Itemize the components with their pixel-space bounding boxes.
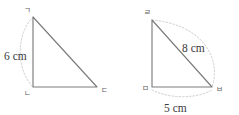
vertex-label-nieun: ㄴ bbox=[24, 89, 31, 98]
geometry-figure: ㄱ ㄴ ㄷ 6 cm ㄹ ㅁ ㅂ 8 cm 5 cm bbox=[0, 0, 239, 115]
measure-label-8cm: 8 cm bbox=[182, 42, 205, 54]
triangle-right bbox=[152, 20, 214, 97]
measure-arc-right-base bbox=[152, 90, 212, 97]
figure-canvas: ㄱ ㄴ ㄷ 6 cm ㄹ ㅁ ㅂ 8 cm 5 cm bbox=[0, 0, 239, 115]
vertex-label-giyeok: ㄱ bbox=[24, 6, 31, 15]
triangle-left-outline bbox=[33, 17, 97, 87]
measure-label-6cm: 6 cm bbox=[4, 50, 27, 62]
triangle-left bbox=[20, 17, 97, 87]
vertex-label-rieul: ㄹ bbox=[144, 8, 151, 17]
vertex-label-tigeut: ㄷ bbox=[101, 86, 108, 95]
measure-label-5cm: 5 cm bbox=[164, 102, 187, 114]
vertex-label-bieup: ㅂ bbox=[216, 85, 223, 94]
vertex-label-mieum: ㅁ bbox=[142, 84, 149, 93]
